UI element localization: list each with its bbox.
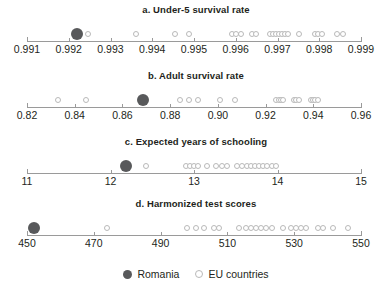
axis-tick-label: 12	[105, 175, 117, 187]
axis-tick-label: 0.96	[351, 109, 371, 121]
axis-tick-label: 15	[355, 175, 367, 187]
tick-labels-a: 0.9910.9920.9930.9940.9950.9960.9970.998…	[0, 43, 392, 59]
axis-tick	[361, 231, 362, 236]
axis-tick	[227, 232, 228, 236]
axis-tick-label: 490	[152, 237, 170, 249]
data-point-eu	[224, 163, 230, 169]
axis-tick-label: 0.996	[223, 43, 249, 55]
axis-tick-label: 0.998	[306, 43, 332, 55]
axis-tick	[294, 232, 295, 236]
data-point-eu	[345, 225, 351, 231]
axis-tick	[69, 38, 70, 42]
data-point-eu	[232, 97, 238, 103]
axis-tick	[194, 38, 195, 42]
plot-area-d	[0, 212, 392, 236]
axis-tick	[94, 232, 95, 236]
data-point-eu	[85, 31, 91, 37]
axis-tick-label: 14	[272, 175, 284, 187]
data-point-eu	[319, 31, 325, 37]
axis-tick-label: 530	[285, 237, 303, 249]
axis-tick	[170, 104, 171, 108]
data-point-eu	[217, 97, 223, 103]
axis-tick-label: 0.90	[208, 109, 228, 121]
romania-dot-icon	[123, 270, 132, 279]
data-point-eu	[186, 31, 192, 37]
data-point-eu	[133, 31, 139, 37]
data-point-eu	[195, 163, 201, 169]
data-point-eu	[340, 31, 346, 37]
data-point-eu	[334, 31, 340, 37]
panel-title-a: a. Under-5 survival rate	[0, 4, 392, 15]
legend-item-eu-countries: EU countries	[195, 268, 268, 280]
data-point-eu	[236, 225, 242, 231]
axis-tick-label: 0.994	[139, 43, 165, 55]
data-point-eu	[83, 97, 89, 103]
axis-tick	[111, 170, 112, 174]
axis-tick	[161, 232, 162, 236]
data-point-eu	[315, 97, 321, 103]
axis-tick-label: 0.997	[264, 43, 290, 55]
axis-tick-label: 0.82	[17, 109, 37, 121]
data-point-eu	[184, 225, 190, 231]
data-point-eu	[195, 97, 201, 103]
axis-tick-label: 0.999	[348, 43, 374, 55]
data-point-romania	[137, 94, 149, 106]
data-point-eu	[213, 163, 219, 169]
axis-tick	[27, 103, 28, 108]
data-point-eu	[280, 97, 286, 103]
data-point-eu	[296, 31, 302, 37]
axis-tick-label: 470	[85, 237, 103, 249]
axis-tick	[27, 231, 28, 236]
data-point-eu	[280, 225, 286, 231]
axis-line	[27, 235, 361, 236]
axis-tick-label: 0.86	[112, 109, 132, 121]
axis-tick-label: 0.92	[255, 109, 275, 121]
axis-tick	[122, 104, 123, 108]
panel-title-b: b. Adult survival rate	[0, 70, 392, 81]
data-point-eu	[263, 225, 269, 231]
axis-tick-label: 0.993	[97, 43, 123, 55]
axis-tick	[27, 37, 28, 42]
data-point-eu	[193, 225, 199, 231]
axis-tick-label: 0.94	[303, 109, 323, 121]
data-point-eu	[273, 163, 279, 169]
data-point-eu	[238, 31, 244, 37]
tick-labels-b: 0.820.840.860.880.900.920.940.96	[0, 109, 392, 125]
data-point-eu	[285, 31, 291, 37]
axis-tick	[278, 38, 279, 42]
data-point-eu	[177, 97, 183, 103]
data-point-eu	[253, 31, 259, 37]
plot-area-c	[0, 150, 392, 174]
axis-tick	[194, 170, 195, 174]
dot-plot-figure: a. Under-5 survival rate 0.9910.9920.993…	[0, 0, 392, 288]
axis-tick	[111, 38, 112, 42]
axis-tick	[361, 169, 362, 174]
axis-tick-label: 450	[18, 237, 36, 249]
plot-area-a	[0, 18, 392, 42]
eu-countries-dot-icon	[195, 270, 203, 278]
data-point-romania	[120, 160, 132, 172]
data-point-eu	[296, 97, 302, 103]
tick-labels-c: 1112131415	[0, 175, 392, 191]
data-point-romania	[28, 222, 40, 234]
data-point-eu	[303, 225, 309, 231]
data-point-eu	[172, 31, 178, 37]
tick-labels-d: 450470490510530550	[0, 237, 392, 253]
data-point-eu	[320, 225, 326, 231]
data-point-eu	[55, 97, 61, 103]
axis-tick	[266, 104, 267, 108]
axis-tick-label: 510	[219, 237, 237, 249]
plot-area-b	[0, 84, 392, 108]
legend-label-romania: Romania	[137, 268, 179, 280]
axis-tick	[27, 169, 28, 174]
data-point-eu	[330, 225, 336, 231]
data-point-eu	[186, 97, 192, 103]
axis-tick-label: 0.995	[181, 43, 207, 55]
data-point-eu	[216, 225, 222, 231]
axis-tick	[361, 37, 362, 42]
axis-tick	[152, 38, 153, 42]
data-point-eu	[204, 163, 210, 169]
axis-tick	[75, 104, 76, 108]
axis-tick	[361, 103, 362, 108]
axis-line	[27, 107, 361, 108]
